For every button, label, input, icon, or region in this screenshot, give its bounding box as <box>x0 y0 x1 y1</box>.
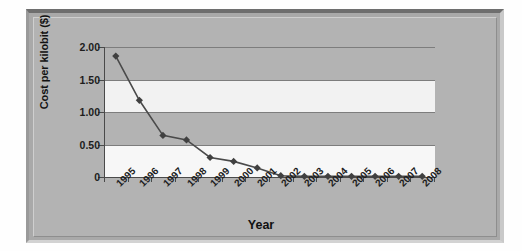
y-tick-label: 1.50 <box>56 75 100 85</box>
data-point-marker <box>254 164 261 171</box>
x-axis-title: Year <box>0 218 522 232</box>
chart-screenshot: Cost per kilobit ($) 2.00 1.50 1.00 0.50… <box>0 0 522 251</box>
data-point-marker <box>230 158 237 165</box>
data-point-marker <box>112 53 119 60</box>
x-tick-mark <box>104 177 105 182</box>
y-tick-label: 0.50 <box>56 140 100 150</box>
y-tick-label: 2.00 <box>56 42 100 52</box>
y-axis-title: Cost per kilobit ($) <box>38 0 50 127</box>
data-series-line <box>104 47 444 187</box>
y-axis-tick-labels: 2.00 1.50 1.00 0.50 0 <box>52 47 100 177</box>
y-tick-label: 1.00 <box>56 107 100 117</box>
y-tick-label: 0 <box>56 172 100 182</box>
